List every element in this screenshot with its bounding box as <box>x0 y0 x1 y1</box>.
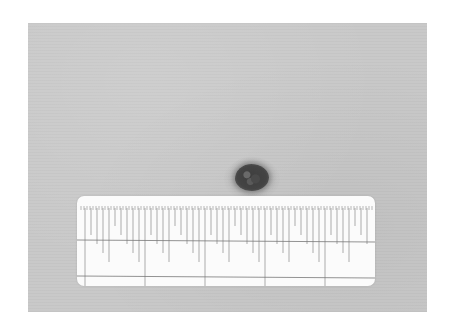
pigmented-lesion <box>235 164 269 191</box>
measurement-ruler <box>77 196 375 286</box>
ruler-ticks <box>77 196 375 286</box>
